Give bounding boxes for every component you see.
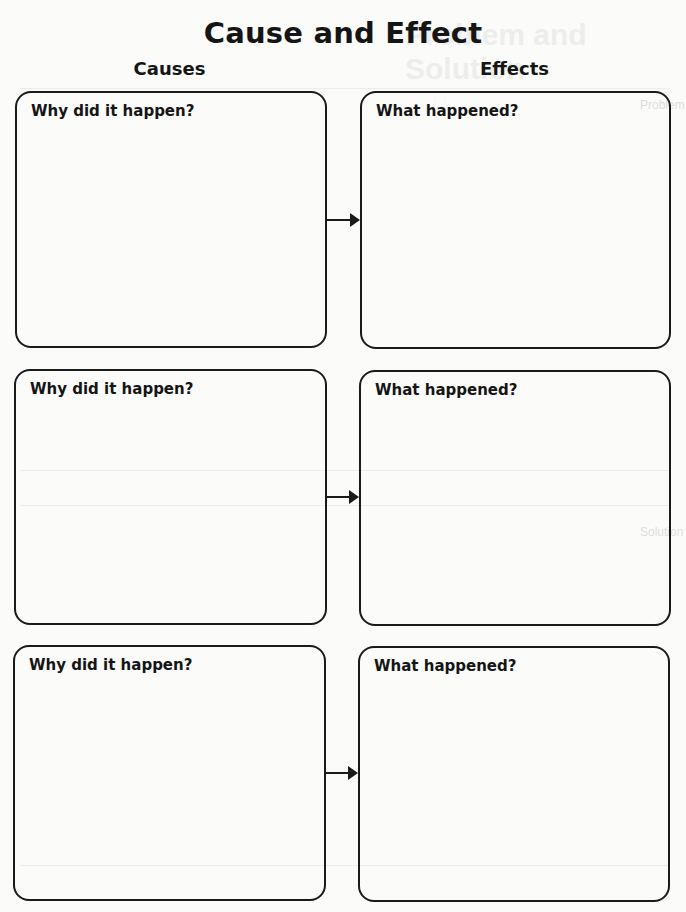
effect-prompt: What happened? [376, 102, 518, 120]
cause-prompt: Why did it happen? [30, 380, 193, 398]
cause-input-2[interactable] [24, 405, 317, 615]
causes-header: Causes [13, 58, 326, 79]
effect-box-2[interactable]: What happened? [359, 370, 671, 626]
arrow-right-icon [327, 496, 357, 498]
effect-box-3[interactable]: What happened? [358, 646, 670, 902]
cause-prompt: Why did it happen? [29, 656, 192, 674]
effect-prompt: What happened? [374, 657, 516, 675]
cause-box-1[interactable]: Why did it happen? [15, 91, 327, 348]
effect-input-2[interactable] [369, 406, 661, 616]
cause-input-3[interactable] [23, 681, 316, 891]
page-title: Cause and Effect [0, 16, 686, 50]
arrow-right-icon [326, 772, 356, 774]
effect-prompt: What happened? [375, 381, 517, 399]
ghost-line [20, 88, 670, 89]
cause-box-2[interactable]: Why did it happen? [14, 369, 327, 625]
arrow-right-icon [327, 219, 358, 221]
cause-input-1[interactable] [25, 127, 317, 338]
effect-input-3[interactable] [368, 682, 660, 892]
effect-box-1[interactable]: What happened? [360, 91, 671, 349]
effect-input-1[interactable] [370, 127, 661, 339]
effects-header: Effects [358, 58, 671, 79]
cause-prompt: Why did it happen? [31, 102, 194, 120]
cause-box-3[interactable]: Why did it happen? [13, 645, 326, 901]
